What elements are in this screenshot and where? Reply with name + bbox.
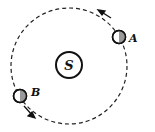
planet-a-label: A bbox=[128, 32, 138, 45]
central-body: S bbox=[56, 52, 82, 78]
arrow-top-icon bbox=[98, 10, 111, 18]
central-body-label: S bbox=[64, 58, 73, 73]
planet-a: A bbox=[113, 31, 139, 46]
planet-b-label: B bbox=[30, 86, 40, 99]
planet-b: B bbox=[14, 86, 41, 103]
orbit-diagram: S A B bbox=[0, 0, 155, 132]
